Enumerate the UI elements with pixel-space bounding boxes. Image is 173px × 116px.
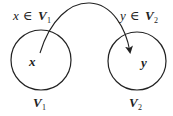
svg-text:∈: ∈ [23, 8, 33, 23]
set-label-v2: V 2 [129, 95, 142, 112]
mapping-arrow [40, 3, 130, 53]
element-x: x [28, 54, 36, 69]
membership-label-x: x ∈ V 1 [12, 8, 51, 25]
membership-label-y: y ∈ V 2 [118, 8, 158, 25]
set-v2-circle [108, 32, 166, 90]
element-y: y [139, 55, 147, 70]
svg-text:1: 1 [42, 103, 46, 112]
svg-text:2: 2 [154, 16, 158, 25]
svg-text:∈: ∈ [130, 8, 140, 23]
mapping-diagram: x ∈ V 1 y ∈ V 2 x y V 1 V 2 [0, 0, 173, 116]
set-v1-circle [11, 30, 71, 90]
svg-text:2: 2 [138, 103, 142, 112]
svg-text:y: y [118, 8, 126, 23]
svg-text:1: 1 [47, 16, 51, 25]
set-label-v1: V 1 [33, 95, 46, 112]
svg-text:x: x [12, 8, 19, 23]
